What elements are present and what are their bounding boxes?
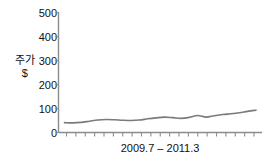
plot-area	[0, 0, 269, 163]
x-axis-ticks	[67, 133, 255, 137]
x-axis-title: 2009.7 – 2011.3	[57, 142, 263, 155]
data-series-group	[65, 110, 257, 123]
data-line-stock-price	[65, 110, 257, 123]
stock-price-line-chart: 주가 $ 0100200300400500 2009.7 – 2011.3	[0, 0, 269, 163]
